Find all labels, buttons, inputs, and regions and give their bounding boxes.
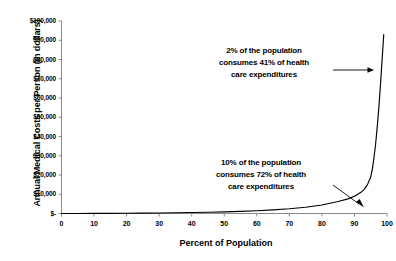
y-tick-label: $60,000: [0, 94, 56, 101]
annotation-top-line-2: consumes 41% of health: [196, 57, 332, 69]
annotation-top-2-percent: 2% of the population consumes 41% of hea…: [196, 45, 332, 81]
y-tick-label: $50,000: [0, 113, 56, 120]
y-tick-label: $30,000: [0, 152, 56, 159]
annotation-bottom-line-1: 10% of the population: [190, 157, 332, 169]
chart-container: Annual Medical Costs per Person (in doll…: [0, 0, 396, 261]
annotation-bottom-10-percent: 10% of the population consumes 72% of he…: [190, 157, 332, 193]
x-tick-label: 90: [339, 220, 369, 228]
x-tick-label: 30: [144, 220, 174, 228]
annotation-bottom-line-2: consumes 72% of health: [190, 169, 332, 181]
annotation-arrow-bottom: [333, 185, 364, 208]
x-tick-label: 70: [274, 220, 304, 228]
x-tick-label: 80: [307, 220, 337, 228]
y-tick-label: $100,000: [0, 17, 56, 24]
annotation-arrow-top: [333, 67, 374, 73]
x-tick-label: 100: [372, 220, 396, 228]
annotation-top-line-1: 2% of the population: [196, 45, 332, 57]
x-tick-label: 40: [177, 220, 207, 228]
x-tick-label: 50: [209, 220, 239, 228]
y-tick-label: $20,000: [0, 171, 56, 178]
x-tick-label: 10: [79, 220, 109, 228]
y-tick-label: $70,000: [0, 75, 56, 82]
x-tick-label: 0: [47, 220, 77, 228]
y-tick-label: $40,000: [0, 133, 56, 140]
x-tick-label: 60: [242, 220, 272, 228]
y-tick-label: $10,000: [0, 190, 56, 197]
y-tick-label: $-: [0, 210, 56, 217]
y-tick-label: $90,000: [0, 36, 56, 43]
x-tick-label: 20: [112, 220, 142, 228]
x-axis-title: Percent of Population: [66, 238, 386, 248]
annotation-bottom-line-3: care expenditures: [190, 181, 332, 193]
annotation-top-line-3: care expenditures: [196, 69, 332, 81]
y-tick-label: $80,000: [0, 56, 56, 63]
